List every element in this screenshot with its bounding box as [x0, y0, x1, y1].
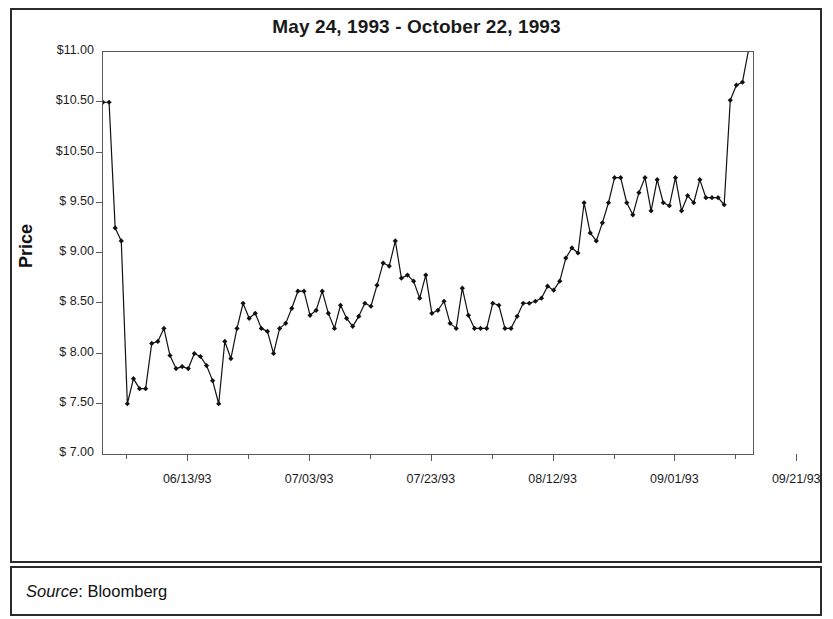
- data-point-marker: [399, 276, 404, 281]
- data-point-marker: [161, 326, 166, 331]
- data-point-marker: [697, 177, 702, 182]
- data-point-marker: [137, 386, 142, 391]
- data-point-marker: [521, 301, 526, 306]
- data-point-marker: [600, 220, 605, 225]
- x-axis-tick-label: 09/01/93: [629, 472, 719, 486]
- y-axis-tick-label: $ 8.00: [14, 345, 94, 359]
- y-axis-tick-label: $ 9.50: [14, 194, 94, 208]
- x-axis-tick-label: 08/12/93: [508, 472, 598, 486]
- data-point-marker: [381, 260, 386, 265]
- chart-figure: May 24, 1993 - October 22, 1993 Price $ …: [0, 0, 833, 619]
- data-point-marker: [131, 376, 136, 381]
- data-point-marker: [234, 326, 239, 331]
- data-point-marker: [103, 100, 106, 105]
- x-axis-tick-mark: [796, 454, 797, 461]
- data-point-marker: [216, 401, 221, 406]
- data-point-marker: [301, 289, 306, 294]
- x-axis-minor-tick-mark: [614, 454, 615, 459]
- data-point-marker: [228, 356, 233, 361]
- y-axis-tick-mark: [96, 202, 103, 203]
- data-point-marker: [533, 299, 538, 304]
- data-point-marker: [484, 326, 489, 331]
- y-axis-tick-label: $11.00: [14, 43, 94, 57]
- x-axis-tick-label: 07/03/93: [264, 472, 354, 486]
- data-point-marker: [539, 296, 544, 301]
- data-point-marker: [155, 339, 160, 344]
- data-point-marker: [649, 208, 654, 213]
- data-point-marker: [289, 306, 294, 311]
- data-point-marker: [429, 311, 434, 316]
- data-point-marker: [295, 289, 300, 294]
- y-axis-tick-mark: [96, 353, 103, 354]
- y-axis-tick-label: $ 7.00: [14, 445, 94, 459]
- y-axis-tick-mark: [96, 302, 103, 303]
- data-point-marker: [606, 200, 611, 205]
- y-axis-tick-label: $ 8.50: [14, 294, 94, 308]
- data-point-marker: [222, 339, 227, 344]
- data-point-marker: [478, 326, 483, 331]
- data-point-marker: [106, 100, 111, 105]
- data-point-marker: [362, 301, 367, 306]
- y-axis-tick-mark: [96, 152, 103, 153]
- data-point-marker: [167, 353, 172, 358]
- data-point-marker: [374, 283, 379, 288]
- x-axis-tick-mark: [674, 454, 675, 461]
- data-point-marker: [387, 263, 392, 268]
- x-axis-tick-mark: [187, 454, 188, 461]
- data-point-marker: [210, 378, 215, 383]
- source-label: Source: [26, 582, 78, 600]
- data-point-marker: [180, 364, 185, 369]
- x-axis-minor-tick-mark: [248, 454, 249, 459]
- data-point-marker: [624, 200, 629, 205]
- x-axis-minor-tick-mark: [126, 454, 127, 459]
- x-axis-tick-mark: [553, 454, 554, 461]
- data-point-marker: [618, 175, 623, 180]
- data-point-marker: [192, 351, 197, 356]
- data-point-marker: [332, 326, 337, 331]
- data-point-marker: [728, 98, 733, 103]
- data-point-marker: [655, 177, 660, 182]
- data-point-marker: [515, 314, 520, 319]
- data-point-marker: [496, 303, 501, 308]
- data-point-marker: [173, 366, 178, 371]
- data-point-marker: [490, 301, 495, 306]
- data-point-marker: [636, 190, 641, 195]
- x-axis-minor-tick-mark: [492, 454, 493, 459]
- data-point-marker: [326, 311, 331, 316]
- y-axis-tick-label: $ 9.00: [14, 244, 94, 258]
- data-point-marker: [119, 238, 124, 243]
- data-point-marker: [472, 326, 477, 331]
- data-point-marker: [630, 212, 635, 217]
- data-point-marker: [661, 200, 666, 205]
- x-axis-tick-label: 06/13/93: [142, 472, 232, 486]
- data-point-marker: [460, 286, 465, 291]
- data-point-marker: [582, 200, 587, 205]
- x-axis-minor-tick-mark: [735, 454, 736, 459]
- data-point-marker: [703, 195, 708, 200]
- data-point-marker: [271, 351, 276, 356]
- data-point-marker: [734, 83, 739, 88]
- data-point-marker: [466, 313, 471, 318]
- data-point-marker: [508, 326, 513, 331]
- y-axis-tick-label: $10.50: [14, 93, 94, 107]
- data-point-marker: [417, 296, 422, 301]
- data-point-marker: [673, 175, 678, 180]
- y-axis-tick-labels: $ 7.00$ 7.50$ 8.00$ 8.50$ 9.00$ 9.50$10.…: [8, 0, 94, 619]
- plot-area: [102, 51, 754, 455]
- data-point-marker: [186, 366, 191, 371]
- data-point-marker: [746, 52, 751, 53]
- data-point-marker: [393, 238, 398, 243]
- data-point-marker: [143, 386, 148, 391]
- y-axis-tick-mark: [96, 101, 103, 102]
- data-point-marker: [423, 273, 428, 278]
- y-axis-tick-mark: [96, 403, 103, 404]
- data-point-marker: [356, 314, 361, 319]
- data-point-marker: [642, 175, 647, 180]
- x-axis-tick-label: 07/23/93: [386, 472, 476, 486]
- data-point-marker: [740, 80, 745, 85]
- data-point-marker: [338, 303, 343, 308]
- price-line: [103, 52, 749, 404]
- data-point-marker: [502, 326, 507, 331]
- data-point-marker: [259, 326, 264, 331]
- x-axis-tick-mark: [309, 454, 310, 461]
